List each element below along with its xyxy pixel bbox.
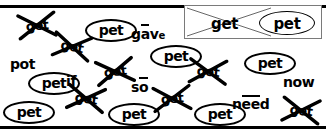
circled-word-label: pet	[3, 105, 55, 119]
example-circled-word-group: pet	[259, 11, 315, 35]
cross-out-icon	[187, 57, 229, 87]
plain-word-label: so	[131, 79, 148, 95]
plain-word-label: pot	[10, 56, 35, 72]
bottom-divider-rule	[0, 126, 326, 129]
cross-out-icon	[151, 83, 193, 113]
cross-out-icon	[280, 95, 323, 126]
example-box: get pet	[184, 5, 322, 39]
plain-word-label: now	[283, 74, 314, 90]
plain-word-need[interactable]: need	[232, 97, 269, 111]
crossed-word[interactable]: get	[187, 57, 229, 87]
circled-word-label: pet	[244, 56, 296, 70]
crossed-word[interactable]: get	[50, 30, 94, 64]
cross-out-icon	[50, 30, 94, 64]
cross-out-icon	[16, 10, 59, 41]
crossed-word[interactable]: get	[151, 83, 193, 113]
crossed-word[interactable]: get	[280, 95, 323, 126]
plain-word-label: if	[66, 73, 76, 89]
worksheet-page: get pet petpetpetpetpetpetpetgetgetgetge…	[0, 0, 326, 137]
plain-word-gave[interactable]: gave	[131, 27, 165, 41]
plain-word-label: gave	[131, 26, 165, 42]
plain-word-now[interactable]: now	[283, 75, 314, 89]
example-crossed-word: get	[211, 15, 238, 33]
circled-word-label: pet	[85, 23, 137, 37]
plain-word-label: need	[232, 96, 269, 112]
plain-word-if[interactable]: if	[66, 74, 76, 88]
plain-word-so[interactable]: so	[131, 80, 148, 94]
crossed-word[interactable]: get	[16, 10, 59, 41]
circled-word[interactable]: pet	[3, 101, 55, 124]
plain-word-pot[interactable]: pot	[10, 57, 35, 71]
circled-word[interactable]: pet	[244, 52, 296, 75]
example-circled-word: pet	[259, 15, 315, 33]
